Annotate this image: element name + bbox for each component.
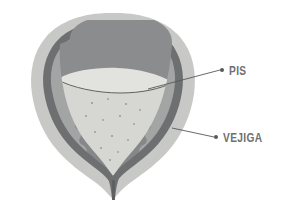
label-pis: PIS [229, 64, 247, 77]
label-vejiga: VEJIGA [223, 131, 263, 144]
leader-dot-vejiga [214, 135, 218, 139]
leader-dot-pis [220, 68, 224, 72]
bladder-diagram: PIS VEJIGA [0, 0, 282, 203]
bladder-anatomy-illustration [0, 0, 282, 203]
